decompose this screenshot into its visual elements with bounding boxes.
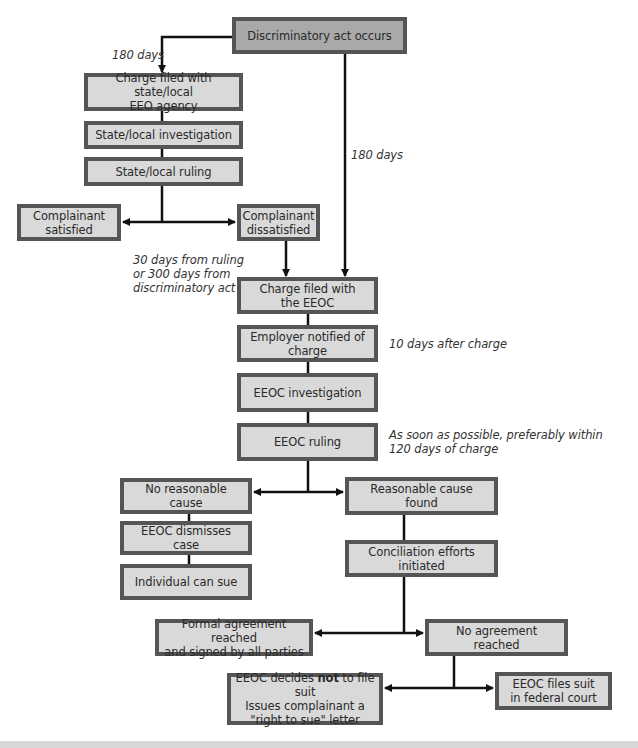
annotation-line3: discriminatory act: [133, 281, 244, 295]
node-label-line1: Formal agreement reached: [163, 617, 305, 645]
annotation-line1: 30 days from ruling: [133, 253, 244, 267]
annotation-line2: or 300 days from: [133, 267, 244, 281]
annotation-180-days-left: 180 days: [112, 48, 164, 62]
node-label: Individual can sue: [135, 575, 238, 589]
bottom-divider: [0, 741, 638, 748]
node-label-line3: "right to sue" letter: [233, 713, 377, 727]
node-label-line2: EEO agency: [92, 99, 235, 113]
node-label-line1: Complainant: [242, 209, 314, 223]
node-eeoc-decides-not-to-file: EEOC decides not to file suit Issues com…: [227, 673, 383, 725]
node-label: No agreement reached: [433, 624, 560, 652]
node-complainant-satisfied: Complainant satisfied: [17, 204, 121, 241]
node-label-line2: and signed by all parties: [163, 645, 305, 659]
node-charge-state-local: Charge filed with state/local EEO agency: [84, 73, 243, 111]
node-label-line1: Charge filed with state/local: [92, 71, 235, 99]
node-label-line2: charge: [250, 344, 365, 358]
annotation-30-days: 30 days from ruling or 300 days from dis…: [133, 253, 244, 295]
node-label: State/local investigation: [95, 128, 232, 142]
node-individual-can-sue: Individual can sue: [120, 564, 252, 600]
node-eeoc-files-suit: EEOC files suit in federal court: [495, 672, 612, 710]
node-reasonable-cause-found: Reasonable cause found: [345, 477, 498, 515]
node-label-line2: the EEOC: [259, 296, 355, 310]
node-label-line1: Complainant: [33, 209, 105, 223]
annotation-line1: As soon as possible, preferably within: [389, 428, 603, 442]
node-no-reasonable-cause: No reasonable cause: [120, 478, 252, 514]
node-label: Discriminatory act occurs: [247, 29, 391, 43]
annotation-180-days-right: 180 days: [351, 148, 403, 162]
annotation-10-days: 10 days after charge: [389, 337, 507, 351]
node-charge-filed-eeoc: Charge filed with the EEOC: [237, 277, 378, 314]
node-eeoc-dismisses-case: EEOC dismisses case: [120, 521, 252, 555]
node-label: EEOC ruling: [274, 435, 341, 449]
node-label: State/local ruling: [116, 165, 212, 179]
node-label: Conciliation efforts initiated: [351, 545, 492, 573]
label-emphasis: not: [318, 671, 339, 685]
annotation-asap: As soon as possible, preferably within 1…: [389, 428, 603, 456]
node-eeoc-investigation: EEOC investigation: [237, 373, 378, 412]
node-formal-agreement: Formal agreement reached and signed by a…: [155, 619, 313, 656]
node-label: EEOC dismisses case: [128, 524, 244, 552]
node-label-line1: EEOC decides not to file suit: [233, 671, 377, 699]
node-label: No reasonable cause: [128, 482, 244, 510]
node-label-line2: Issues complainant a: [233, 699, 377, 713]
node-label-line2: in federal court: [510, 691, 597, 705]
node-label: Reasonable cause found: [353, 482, 490, 510]
node-no-agreement: No agreement reached: [425, 619, 568, 656]
node-discriminatory-act: Discriminatory act occurs: [232, 17, 407, 54]
node-label-line2: satisfied: [33, 223, 105, 237]
annotation-line2: 120 days of charge: [389, 442, 603, 456]
node-label-line1: EEOC files suit: [510, 677, 597, 691]
node-eeoc-ruling: EEOC ruling: [237, 423, 378, 461]
node-complainant-dissatisfied: Complainant dissatisfied: [237, 204, 320, 241]
node-state-local-investigation: State/local investigation: [84, 121, 243, 149]
node-label-line1: Charge filed with: [259, 282, 355, 296]
node-label: EEOC investigation: [254, 386, 362, 400]
node-label-line1: Employer notified of: [250, 330, 365, 344]
node-employer-notified: Employer notified of charge: [237, 325, 378, 362]
node-conciliation-efforts: Conciliation efforts initiated: [345, 540, 498, 577]
label-prefix: EEOC decides: [236, 671, 318, 685]
node-label-line2: dissatisfied: [242, 223, 314, 237]
node-state-local-ruling: State/local ruling: [84, 157, 243, 186]
